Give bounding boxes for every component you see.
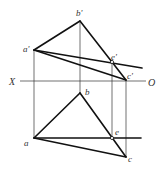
- point-e-marker: [110, 136, 113, 139]
- label-e-prime: e': [111, 52, 118, 62]
- edge-b-c: [80, 93, 126, 157]
- label-a: a: [24, 138, 29, 148]
- edge-b-prime-c-prime: [80, 21, 126, 80]
- edge-a-b: [34, 93, 80, 138]
- edge-a-prime-b-prime: [34, 21, 80, 50]
- label-a-prime: a': [23, 44, 31, 54]
- projection-diagram: X O b' a' e' c' b a e c: [0, 0, 163, 170]
- edge-a-c: [34, 138, 126, 157]
- label-c-prime: c': [127, 71, 134, 81]
- label-b: b: [85, 87, 90, 97]
- label-e: e: [115, 127, 119, 137]
- label-b-prime: b': [76, 8, 84, 18]
- axis-label-x: X: [8, 76, 16, 87]
- axis-label-o: O: [148, 77, 155, 88]
- line-a-prime-e-prime-extended: [34, 50, 142, 68]
- label-c: c: [128, 154, 132, 164]
